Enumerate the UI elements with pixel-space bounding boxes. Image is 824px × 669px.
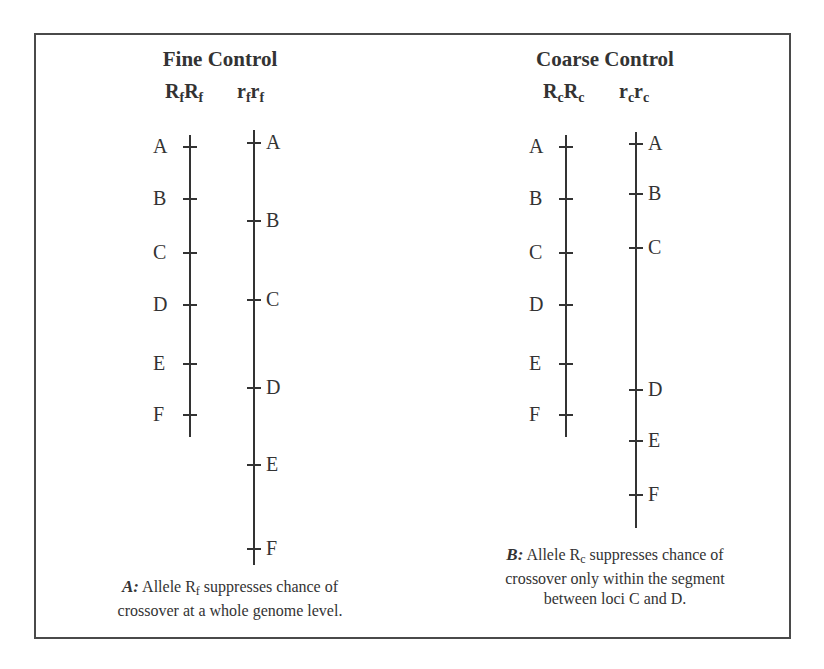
locus-tick-e <box>183 363 197 365</box>
chromosome-line <box>565 135 567 437</box>
locus-label-a: A <box>529 136 543 156</box>
locus-tick-c <box>183 252 197 254</box>
locus-tick-d <box>247 387 261 389</box>
locus-label-b: B <box>266 210 279 230</box>
locus-label-f: F <box>266 538 277 558</box>
genotype-label-rfrf: rfrf <box>237 80 264 106</box>
locus-label-d: D <box>266 377 280 397</box>
locus-label-c: C <box>648 237 661 257</box>
locus-tick-b <box>629 193 643 195</box>
locus-tick-f <box>559 414 573 416</box>
genotype-label-RfRf: RfRf <box>165 80 203 106</box>
locus-label-e: E <box>153 353 165 373</box>
locus-label-c: C <box>266 289 279 309</box>
locus-tick-f <box>629 494 643 496</box>
locus-label-a: A <box>153 136 167 156</box>
locus-label-d: D <box>153 294 167 314</box>
locus-tick-c <box>629 247 643 249</box>
locus-tick-d <box>559 304 573 306</box>
locus-label-e: E <box>529 353 541 373</box>
locus-label-b: B <box>529 188 542 208</box>
locus-tick-b <box>183 198 197 200</box>
caption-b: B: Allele Rc suppresses chance of crosso… <box>445 545 785 609</box>
locus-tick-c <box>247 299 261 301</box>
locus-label-f: F <box>648 484 659 504</box>
caption-a: A: Allele Rf suppresses chance of crosso… <box>60 577 400 621</box>
chromosome-line <box>635 132 637 528</box>
chromosome-line <box>253 130 255 565</box>
chromosome-line <box>189 135 191 437</box>
locus-label-b: B <box>153 188 166 208</box>
locus-tick-d <box>183 304 197 306</box>
locus-label-e: E <box>648 430 660 450</box>
locus-label-d: D <box>529 294 543 314</box>
locus-label-f: F <box>529 404 540 424</box>
locus-label-a: A <box>266 132 280 152</box>
locus-tick-f <box>183 414 197 416</box>
locus-tick-a <box>559 146 573 148</box>
genotype-label-RcRc: RcRc <box>543 80 584 106</box>
locus-tick-a <box>247 142 261 144</box>
panel-title: Fine Control <box>130 47 310 72</box>
locus-tick-e <box>247 464 261 466</box>
locus-tick-b <box>247 220 261 222</box>
locus-tick-e <box>559 363 573 365</box>
locus-label-d: D <box>648 379 662 399</box>
locus-tick-a <box>629 143 643 145</box>
locus-tick-c <box>559 252 573 254</box>
locus-tick-f <box>247 548 261 550</box>
panel-title: Coarse Control <box>505 47 705 72</box>
locus-label-b: B <box>648 183 661 203</box>
locus-label-c: C <box>153 242 166 262</box>
genotype-label-rcrc: rcrc <box>619 80 649 106</box>
locus-tick-d <box>629 389 643 391</box>
locus-label-c: C <box>529 242 542 262</box>
locus-label-f: F <box>153 404 164 424</box>
locus-label-e: E <box>266 454 278 474</box>
locus-tick-e <box>629 440 643 442</box>
locus-tick-a <box>183 146 197 148</box>
locus-label-a: A <box>648 133 662 153</box>
locus-tick-b <box>559 198 573 200</box>
